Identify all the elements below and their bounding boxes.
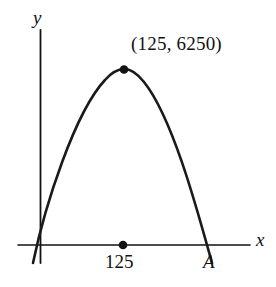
parabola-figure: y x (125, 6250) 125 A [0, 0, 276, 287]
point-label-a: A [203, 252, 215, 271]
vertex-point-marker [120, 65, 129, 74]
y-axis-label: y [33, 8, 41, 27]
vertex-coordinate-label: (125, 6250) [131, 34, 222, 53]
x-axis-label: x [256, 230, 264, 249]
x-tick-label-125: 125 [105, 252, 134, 271]
parabola-curve [33, 69, 212, 263]
x-axis-point-marker-125 [119, 241, 128, 250]
